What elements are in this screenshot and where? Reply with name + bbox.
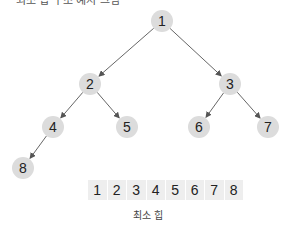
heap-array: 12345678 bbox=[88, 180, 243, 200]
array-cell-4: 4 bbox=[147, 180, 166, 200]
array-cell-8: 8 bbox=[225, 180, 244, 200]
array-cell-1: 1 bbox=[88, 180, 107, 200]
array-caption: 최소 힙 bbox=[6, 207, 284, 222]
tree-node-8: 8 bbox=[12, 157, 34, 179]
array-cell-5: 5 bbox=[166, 180, 185, 200]
tree-node-5: 5 bbox=[116, 116, 138, 138]
array-cell-6: 6 bbox=[186, 180, 205, 200]
node-label: 4 bbox=[49, 119, 57, 135]
tree-node-1: 1 bbox=[151, 10, 173, 32]
edge-1-3 bbox=[170, 28, 221, 75]
node-label: 7 bbox=[264, 119, 272, 135]
tree-node-4: 4 bbox=[42, 116, 64, 138]
edge-3-7 bbox=[237, 92, 260, 118]
node-label: 6 bbox=[195, 119, 203, 135]
edge-4-8 bbox=[30, 136, 46, 158]
edge-2-5 bbox=[97, 92, 119, 118]
tree-node-3: 3 bbox=[219, 73, 241, 95]
node-label: 1 bbox=[158, 13, 166, 29]
edge-2-4 bbox=[61, 92, 83, 118]
tree-node-7: 7 bbox=[257, 116, 279, 138]
node-label: 3 bbox=[226, 76, 234, 92]
edge-3-6 bbox=[206, 93, 224, 117]
array-cell-2: 2 bbox=[108, 180, 127, 200]
array-cell-7: 7 bbox=[205, 180, 224, 200]
array-cell-3: 3 bbox=[127, 180, 146, 200]
node-label: 2 bbox=[86, 76, 94, 92]
tree-node-6: 6 bbox=[188, 116, 210, 138]
node-label: 8 bbox=[19, 160, 27, 176]
node-label: 5 bbox=[123, 119, 131, 135]
edge-1-2 bbox=[99, 28, 154, 76]
tree-node-2: 2 bbox=[79, 73, 101, 95]
